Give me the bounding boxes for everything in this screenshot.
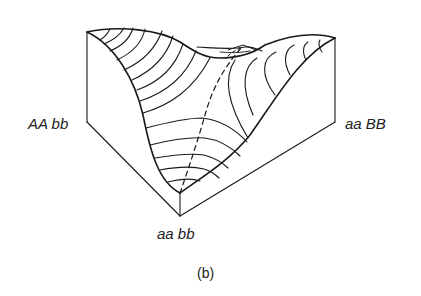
label-aa-bb-front-corner: aa bb xyxy=(157,226,195,241)
contours-left xyxy=(100,28,210,113)
landscape-figure: AA bb aa BB aa bb (b) xyxy=(0,0,421,296)
label-aa-bb-left-corner: AA bb xyxy=(28,116,68,131)
figure-caption: (b) xyxy=(197,266,214,280)
surface-outline xyxy=(87,29,335,193)
landscape-diagram xyxy=(0,0,421,296)
label-aa-bb-right-corner: aa BB xyxy=(345,116,386,131)
block-edges xyxy=(87,32,335,216)
